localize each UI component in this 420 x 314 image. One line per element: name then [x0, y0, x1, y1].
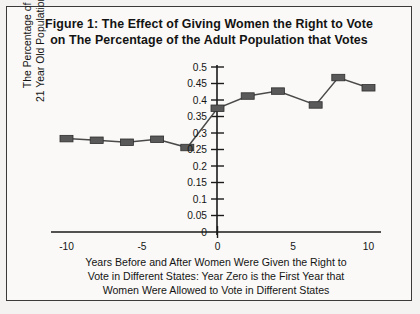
data-point-marker — [211, 105, 224, 112]
figure-frame: Figure 1: The Effect of Giving Women the… — [6, 6, 412, 301]
data-point-marker — [309, 102, 322, 109]
x-axis-caption-line-1: Years Before and After Women Were Given … — [37, 255, 395, 269]
y-axis-tick-label: 0.45 — [187, 78, 207, 89]
x-axis-caption: Years Before and After Women Were Given … — [37, 255, 395, 297]
data-point-marker — [362, 85, 375, 92]
y-axis-tick-label: 0 — [201, 227, 207, 238]
y-axis-tick-label: 0.35 — [187, 111, 207, 122]
data-point-marker — [332, 74, 345, 81]
x-axis-tick-label: 5 — [290, 241, 296, 252]
y-axis-tick-labels: 00.050.10.150.20.250.30.350.40.450.5 — [187, 62, 207, 238]
data-point-marker — [90, 137, 103, 144]
data-point-marker — [60, 135, 73, 142]
x-axis-tick-labels: -10-50510 — [59, 241, 374, 252]
x-axis-tick-label: -5 — [137, 241, 146, 252]
y-axis-tick-label: 0.05 — [187, 210, 207, 221]
y-axis-tick-label: 0.15 — [187, 177, 207, 188]
y-axis-tick-label: 0.25 — [187, 144, 207, 155]
y-axis-tick-label: 0.5 — [193, 62, 207, 73]
data-point-marker — [241, 93, 254, 100]
y-axis-tick-label: 0.4 — [193, 95, 207, 106]
x-axis-tick-label: 10 — [363, 241, 375, 252]
x-axis-tick-label: -10 — [59, 241, 74, 252]
y-axis-tick-label: 0.3 — [193, 128, 207, 139]
data-point-marker — [271, 88, 284, 95]
data-point-marker — [120, 139, 133, 146]
x-axis-caption-line-2: Vote in Different States: Year Zero is t… — [37, 269, 395, 283]
x-axis-caption-line-3: Women Were Allowed to Vote in Different … — [37, 283, 395, 297]
y-axis-tick-label: 0.1 — [193, 194, 207, 205]
y-axis-tick-label: 0.2 — [193, 161, 207, 172]
data-point-marker — [151, 136, 164, 143]
x-axis-tick-label: 0 — [215, 241, 221, 252]
